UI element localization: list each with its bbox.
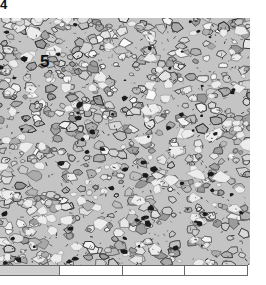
micrograph-image: 5 xyxy=(0,18,250,265)
scale-bar-segment xyxy=(123,266,185,275)
region-label: 5 xyxy=(40,53,49,71)
scale-bar-segment xyxy=(0,266,60,275)
panel-label: 4 xyxy=(0,0,7,12)
scale-bar xyxy=(0,265,248,276)
grain-texture xyxy=(0,18,250,265)
scale-bar-segment xyxy=(60,266,123,275)
scale-bar-segment xyxy=(185,266,248,275)
